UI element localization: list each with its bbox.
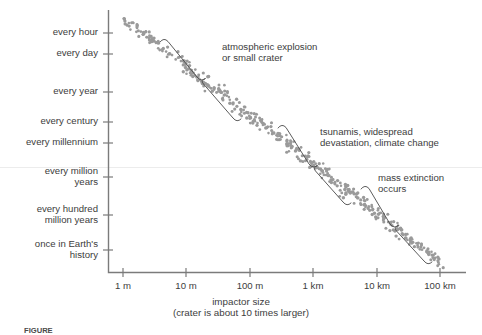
scatter-point [148,36,151,39]
scatter-point [308,166,311,169]
scatter-point [296,155,299,158]
figure-caption: FIGURE [24,326,464,335]
scatter-point [254,116,257,119]
scatter-point [377,213,380,216]
scatter-point [258,116,261,119]
scatter-point [307,151,310,154]
scatter-point [434,252,437,255]
scatter-point [413,245,416,248]
scatter-point [157,47,160,50]
scatter-point [327,175,330,178]
scatter-point [235,98,238,101]
scatter-point [279,138,282,141]
scatter-point [396,222,399,225]
scatter-point [371,213,374,216]
scatter-point [362,203,365,206]
scatter-point [328,168,331,171]
scatter-point [370,205,373,208]
scatter-point [231,102,234,105]
x-axis-title: impactor size [0,296,482,307]
scatter-point [206,83,209,86]
scatter-point [275,138,278,141]
scatter-point [426,247,429,250]
scatter-point [152,38,155,41]
scatter-point [299,159,302,162]
x-label-10km: 10 km [342,280,412,291]
scatter-point [165,50,168,53]
scatter-point [206,75,209,78]
scatter-point [398,238,401,241]
scatter-point [362,196,365,199]
scatter-point [312,161,315,164]
scatter-point [270,129,273,132]
scatter-point [324,167,327,170]
scatter-point [382,216,385,219]
scatter-point [430,250,433,253]
x-label-1m: 1 m [88,280,158,291]
scatter-point [429,258,432,261]
scatter-point [235,105,238,108]
scatter-point [367,205,370,208]
scatter-point [339,181,342,184]
y-label-every-hour: every hour [2,27,98,38]
scatter-point [344,183,347,186]
scatter-point [144,31,147,34]
scatter-point [229,98,232,101]
scatter-point [248,117,251,120]
scatter-point [436,256,439,259]
scatter-point [425,250,428,253]
scatter-point [352,187,355,190]
scatter-point [339,189,342,192]
scatter-point [261,118,264,121]
scatter-point [215,91,218,94]
scatter-point [359,198,362,201]
scatter-point [300,146,303,149]
scatter-point [394,234,397,237]
scatter-point [223,84,226,87]
scatter-point [384,227,387,230]
scatter-point [251,121,254,124]
scatter-point [137,29,140,32]
scatter-point [267,132,270,135]
scatter-point [208,86,211,89]
scatter-point [410,242,413,245]
scatter-point [386,213,389,216]
y-label-every-year: every year [2,86,98,97]
scatter-point [336,179,339,182]
scatter-point [377,209,380,212]
scatter-point [388,229,391,232]
scatter-point [437,261,440,264]
scatter-point [148,34,151,37]
scatter-point [442,266,445,269]
scatter-point [228,101,232,105]
scatter-point [217,87,220,90]
scatter-point [123,17,126,20]
scatter-point [404,233,407,236]
scatter-point [392,220,395,223]
scatter-point [353,202,356,205]
scatter-point [132,21,135,24]
scatter-point [363,199,366,202]
scatter-point [330,181,333,184]
scatter-point [396,227,399,230]
scatter-point [375,218,378,221]
scatter-point [189,72,192,75]
scatter-point [291,146,294,149]
x-label-100m: 100 m [215,280,285,291]
scatter-point [294,149,297,152]
x-label-1km: 1 km [278,280,348,291]
y-label-once-in-earths-history: once in Earth's history [2,239,98,260]
scatter-point [255,124,258,127]
scatter-point [430,253,433,256]
scatter-point [340,191,343,194]
y-label-every-century: every century [2,116,98,127]
annotation-mass-extinction: mass extinction occurs [378,172,444,194]
scatter-point [331,178,334,181]
scatter-point [269,125,272,128]
scatter-point [217,84,220,87]
scatter-point [148,41,151,44]
scatter-point [129,28,132,31]
annotation-tsunamis: tsunamis, widespread devastation, climat… [320,126,439,148]
scatter-point [322,162,325,165]
scatter-point [137,35,140,38]
